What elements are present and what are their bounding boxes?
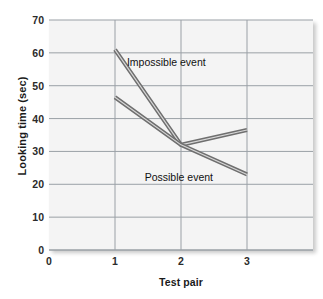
x-axis-tick-label: 0: [34, 256, 64, 267]
y-axis-tick-label: 40: [20, 114, 44, 125]
y-axis-tick-label: 30: [20, 146, 44, 157]
y-axis-tick-label: 50: [20, 81, 44, 92]
x-axis-tick-label: 3: [232, 256, 262, 267]
y-axis-tick-label: 60: [20, 48, 44, 59]
series-label-possible-event: Possible event: [145, 171, 213, 183]
line-chart: Looking time (sec) 010203040506070 Impos…: [0, 0, 323, 299]
y-axis-tick-label: 10: [20, 212, 44, 223]
y-axis-tick-label: 70: [20, 15, 44, 26]
x-axis-tick-label: 2: [166, 256, 196, 267]
x-axis-title: Test pair: [49, 276, 313, 288]
x-axis-tick-label: 1: [100, 256, 130, 267]
y-axis-tick-labels: 010203040506070: [0, 0, 44, 299]
plot-area: Impossible event Possible event: [49, 20, 313, 250]
y-axis-tick-label: 0: [20, 245, 44, 256]
y-axis-tick-label: 20: [20, 179, 44, 190]
series-label-impossible-event: Impossible event: [127, 56, 206, 68]
plot-canvas: [49, 20, 313, 250]
